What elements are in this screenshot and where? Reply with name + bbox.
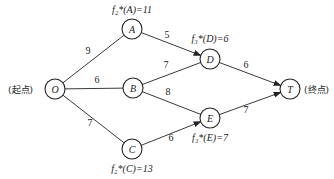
edge-o-c bbox=[63, 95, 124, 143]
edge-weight-c-e: 6 bbox=[169, 132, 174, 143]
node-t: T bbox=[280, 79, 300, 99]
node-e: E bbox=[200, 108, 220, 128]
node-label: C bbox=[129, 144, 136, 155]
edge-weight-d-t: 6 bbox=[244, 59, 249, 70]
annotation-d: f₃*(D)=6 bbox=[192, 33, 229, 45]
node-label: B bbox=[130, 83, 136, 94]
edge-weight-b-e: 8 bbox=[166, 86, 171, 97]
end-label: (终点) bbox=[304, 84, 329, 95]
start-label: (起点) bbox=[8, 85, 33, 95]
node-b: B bbox=[123, 78, 143, 98]
graph-diagram: 967578667 OABCDET f₂*(A)=11f₃*(D)=6f₃*(E… bbox=[0, 0, 334, 179]
edge-d-t bbox=[219, 63, 280, 86]
node-a: A bbox=[122, 19, 142, 39]
node-label: A bbox=[128, 24, 136, 35]
annotation-c: f₂*(C)=13 bbox=[111, 163, 152, 175]
node-label: D bbox=[205, 54, 214, 65]
node-o: O bbox=[45, 79, 65, 99]
edge-o-b bbox=[65, 88, 123, 89]
edge-weight-o-b: 6 bbox=[95, 74, 100, 85]
edge-o-a bbox=[63, 35, 124, 83]
annotation-a: f₂*(A)=11 bbox=[112, 4, 152, 16]
edge-weight-a-d: 5 bbox=[165, 29, 170, 40]
node-label: E bbox=[206, 113, 213, 124]
edge-weight-o-a: 9 bbox=[86, 45, 91, 56]
annotation-e: f₃*(E)=7 bbox=[192, 132, 229, 144]
edge-weight-o-c: 7 bbox=[88, 117, 93, 128]
edge-b-e bbox=[142, 92, 200, 115]
edge-weight-e-t: 7 bbox=[244, 104, 249, 115]
edges-layer bbox=[63, 33, 281, 146]
edge-weight-b-d: 7 bbox=[164, 59, 169, 70]
node-c: C bbox=[122, 139, 142, 159]
node-label: O bbox=[51, 84, 58, 95]
edge-b-d bbox=[142, 63, 200, 85]
edge-e-t bbox=[219, 92, 280, 114]
node-d: D bbox=[200, 49, 220, 69]
